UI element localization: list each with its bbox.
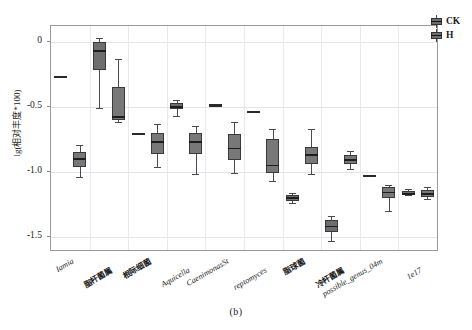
boxplot-whisker-cap [289,193,296,194]
y-tick-label: -1.0 [0,166,46,176]
boxplot-whisker [311,129,312,147]
boxplot-flat-marker [247,111,260,113]
boxplot-whisker [273,173,274,181]
figure-caption: (b) [0,306,472,317]
boxplot-iqr-box [266,139,279,173]
gridline-vertical [360,26,361,250]
boxplot-iqr-box [189,133,202,154]
boxplot-whisker-cap [405,195,412,196]
boxplot-key-icon [430,17,443,26]
gridline-vertical [398,26,399,250]
boxplot-whisker-cap [96,38,103,39]
gridline-vertical [205,26,206,250]
boxplot-median-line [382,192,395,194]
boxplot-key-icon [430,31,443,40]
boxplot-whisker-cap [385,211,392,212]
boxplot-median-line [325,226,338,228]
boxplot-whisker [273,129,274,139]
boxplot-flat-marker [132,133,145,135]
boxplot-whisker-cap [115,59,122,60]
boxplot-whisker-cap [231,173,238,174]
y-tick-label: -1.5 [0,231,46,241]
boxplot-iqr-box [151,133,164,154]
boxplot-whisker [157,124,158,133]
boxplot-median-line [189,141,202,143]
boxplot-median-line [305,154,318,156]
boxplot-whisker-cap [76,177,83,178]
boxplot-median-line [228,148,241,150]
boxplot-whisker-cap [347,151,354,152]
boxplot-median-line [286,197,299,199]
boxplot-whisker [234,122,235,134]
boxplot-whisker-cap [405,189,412,190]
boxplot-whisker-cap [269,181,276,182]
boxplot-whisker [118,59,119,88]
boxplot-whisker-cap [347,169,354,170]
boxplot-whisker-cap [308,174,315,175]
boxplot-whisker-cap [154,124,161,125]
y-tick-label: 0 [0,36,46,46]
boxplot-whisker-cap [96,108,103,109]
boxplot-flat-marker [363,175,376,177]
boxplot-flat-marker [54,76,67,78]
boxplot-median-line [93,50,106,52]
gridline-vertical [244,26,245,250]
boxplot-whisker-cap [173,100,180,101]
boxplot-whisker [99,70,100,108]
boxplot-median-line [402,193,415,195]
boxplot-median-line [151,141,164,143]
boxplot-whisker-cap [269,129,276,130]
legend: CK H [430,14,472,42]
boxplot-whisker [80,167,81,177]
boxplot-whisker-cap [289,203,296,204]
boxplot-whisker-cap [424,187,431,188]
y-tick-label: -0.5 [0,101,46,111]
boxplot-iqr-box [112,87,125,120]
boxplot-median-line [112,116,125,118]
legend-label-h: H [446,30,453,40]
boxplot-whisker [331,232,332,241]
gridline-vertical [283,26,284,250]
boxplot-whisker [196,154,197,175]
boxplot-whisker-cap [328,241,335,242]
boxplot-whisker [311,164,312,174]
boxplot-whisker-cap [154,167,161,168]
gridline-vertical [128,26,129,250]
boxplot-whisker-cap [192,126,199,127]
boxplot-whisker [234,160,235,173]
boxplot-iqr-box [93,42,106,71]
legend-label-ck: CK [446,16,460,26]
boxplot-median-line [344,159,357,161]
boxplot-whisker-cap [173,116,180,117]
plot-area [50,25,438,251]
boxplot-whisker-cap [115,122,122,123]
gridline-vertical [90,26,91,250]
boxplot-whisker [177,109,178,116]
gridline-vertical [167,26,168,250]
boxplot-whisker-cap [192,174,199,175]
boxplot-whisker-cap [385,185,392,186]
boxplot-whisker [80,145,81,153]
boxplot-median-line [170,106,183,108]
boxplot-whisker-cap [231,122,238,123]
legend-item-h[interactable]: H [430,28,472,42]
gridline-vertical [321,26,322,250]
boxplot-whisker-cap [76,145,83,146]
boxplot-median-line [266,165,279,167]
boxplot-whisker-cap [424,199,431,200]
boxplot-whisker-cap [328,216,335,217]
boxplot-median-line [421,193,434,195]
figure-root: lg(相对丰度*100) 0-0.5-1.0-1.5 Iamia脂杆菌属根际细菌… [0,0,472,330]
boxplot-flat-marker [209,104,222,106]
boxplot-whisker [157,154,158,167]
legend-item-ck[interactable]: CK [430,14,472,28]
boxplot-whisker [389,198,390,211]
boxplot-median-line [73,158,86,160]
boxplot-whisker-cap [308,129,315,130]
y-axis-title: lg(相对丰度*100) [12,64,22,182]
